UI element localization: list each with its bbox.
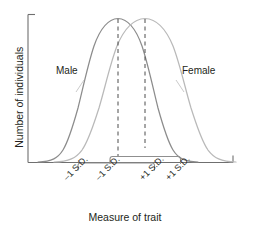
chart-plot-area (0, 0, 255, 234)
normal-distribution-chart: Number of individuals Measure of trait M… (0, 0, 255, 234)
x-axis-label: Measure of trait (55, 212, 195, 223)
label-leader-lines (76, 80, 184, 92)
female-curve-label: Female (182, 66, 215, 76)
male-curve-label: Male (56, 66, 78, 76)
y-axis (28, 15, 35, 163)
y-axis-label: Number of individuals (14, 32, 25, 162)
